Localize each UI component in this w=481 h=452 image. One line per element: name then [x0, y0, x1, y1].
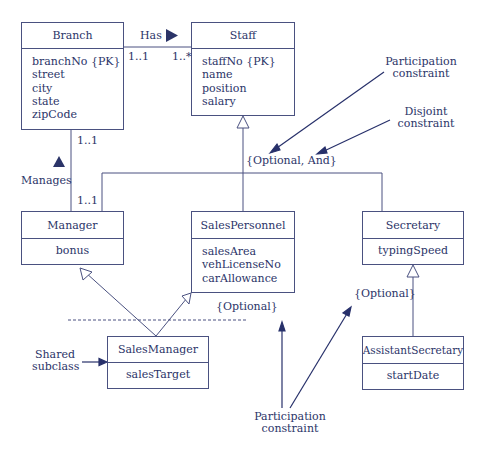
attribute: zipCode — [32, 108, 123, 121]
class-branch: Branch branchNo {PK} street city state z… — [21, 22, 124, 130]
class-attributes: bonus — [22, 239, 123, 257]
class-attributes: branchNo {PK} street city state zipCode — [22, 49, 123, 121]
class-attributes: startDate — [363, 364, 463, 382]
manages-direction-triangle — [53, 156, 65, 167]
annotation-disjoint-constraint: Disjoint constraint — [388, 106, 464, 130]
attribute: salary — [202, 95, 294, 108]
class-attributes: typingSpeed — [363, 239, 463, 257]
attribute: carAllowance — [202, 272, 294, 285]
attribute: city — [32, 82, 123, 95]
manages-multiplicity-branch: 1..1 — [77, 135, 98, 147]
generalization-triangle-secretary — [407, 265, 419, 277]
class-assistantsecretary: AssistantSecretary startDate — [362, 336, 464, 390]
has-multiplicity-staff: 1..* — [172, 51, 192, 63]
has-multiplicity-branch: 1..1 — [128, 51, 149, 63]
annotation-shared-subclass: Shared subclass — [32, 349, 78, 373]
annotation-participation-constraint-top: Participation constraint — [378, 56, 464, 80]
manages-multiplicity-manager: 1..1 — [77, 195, 98, 207]
class-name: Staff — [192, 23, 294, 49]
constraint-optional-and: {Optional, And} — [246, 155, 337, 167]
generalization-triangle-staff — [237, 116, 249, 128]
attribute: name — [202, 68, 294, 81]
generalization-triangle-manager — [80, 268, 92, 280]
class-name: AssistantSecretary — [363, 337, 463, 364]
attribute: salesArea — [202, 245, 294, 258]
manages-label: Manages — [21, 175, 72, 187]
annotation-line: constraint — [247, 423, 333, 435]
class-salesmanager: SalesManager salesTarget — [107, 336, 209, 389]
attribute: startDate — [363, 369, 463, 382]
class-name: SalesManager — [108, 337, 208, 363]
class-secretary: Secretary typingSpeed — [362, 211, 464, 265]
annotation-line: constraint — [388, 118, 464, 130]
class-attributes: staffNo {PK} name position salary — [192, 49, 294, 108]
annotation-line: subclass — [32, 361, 78, 373]
attribute: state — [32, 95, 123, 108]
attribute: street — [32, 68, 123, 81]
attribute: typingSpeed — [363, 244, 463, 257]
constraint-optional-salespersonnel: {Optional} — [216, 301, 278, 313]
annotation-line: constraint — [378, 68, 464, 80]
class-attributes: salesTarget — [108, 363, 208, 381]
class-staff: Staff staffNo {PK} name position salary — [191, 22, 295, 116]
attribute: salesTarget — [108, 368, 208, 381]
class-attributes: salesArea vehLicenseNo carAllowance — [192, 239, 294, 285]
attribute: bonus — [22, 244, 123, 257]
class-name: Manager — [22, 212, 123, 239]
class-salespersonnel: SalesPersonnel salesArea vehLicenseNo ca… — [191, 211, 295, 293]
has-direction-triangle — [166, 29, 178, 42]
attribute: position — [202, 82, 294, 95]
class-name: SalesPersonnel — [192, 212, 294, 239]
attribute: staffNo {PK} — [202, 55, 294, 68]
class-name: Secretary — [363, 212, 463, 239]
constraint-optional-secretary: {Optional} — [354, 288, 416, 300]
class-manager: Manager bonus — [21, 211, 124, 265]
annotation-participation-constraint-bottom: Participation constraint — [247, 411, 333, 435]
attribute: vehLicenseNo — [202, 258, 294, 271]
class-name: Branch — [22, 23, 123, 49]
attribute: branchNo {PK} — [32, 55, 123, 68]
has-label: Has — [140, 30, 162, 42]
